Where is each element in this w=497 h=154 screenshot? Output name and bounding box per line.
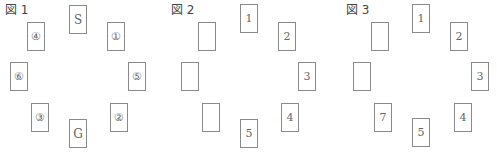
card-left (181, 62, 199, 91)
card-bottom: 5 (240, 119, 258, 148)
figure-1-label: 図 1 (5, 3, 28, 17)
card-bottom-left (202, 103, 220, 132)
card-right: ⑤ (128, 62, 146, 91)
card-right: 3 (298, 62, 316, 91)
card-bottom-left: 7 (374, 103, 392, 132)
card-top: 1 (412, 4, 430, 33)
figure-2-label: 図 2 (171, 3, 194, 17)
figure-3-label: 図 3 (346, 3, 369, 17)
card-top-right: ① (107, 22, 125, 51)
card-right: 3 (471, 62, 489, 91)
card-bottom: G (69, 119, 87, 148)
card-bottom-right: 4 (454, 103, 472, 132)
card-left (353, 62, 371, 91)
card-bottom-right: 4 (281, 103, 299, 132)
card-top-left (198, 22, 216, 51)
card-bottom-right: ② (110, 103, 128, 132)
card-top-left: ④ (27, 22, 45, 51)
card-left: ⑥ (10, 62, 28, 91)
card-top-right: 2 (450, 22, 468, 51)
card-top-left (371, 22, 389, 51)
card-top: 1 (240, 4, 258, 33)
card-top-right: 2 (278, 22, 296, 51)
card-bottom: 5 (412, 118, 430, 147)
card-top: S (69, 5, 87, 34)
card-bottom-left: ③ (31, 103, 49, 132)
